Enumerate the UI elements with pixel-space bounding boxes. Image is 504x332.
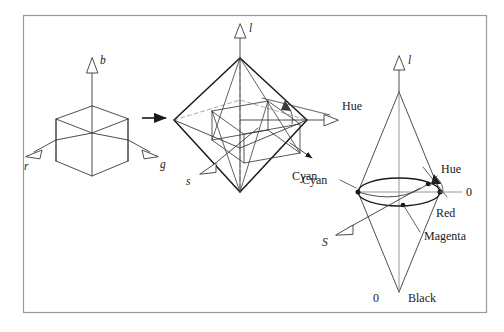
axis-label-s-octahedron: s	[186, 175, 191, 187]
octahedron-outline	[174, 58, 307, 192]
axis-b	[87, 58, 98, 106]
axis-hue-octahedron	[240, 98, 338, 126]
octahedron-construction-lines	[212, 58, 300, 192]
axis-label-l-octahedron: l	[249, 22, 252, 34]
axis-l-octahedron	[235, 24, 246, 58]
axis-label-hue-octahedron: Hue	[342, 99, 362, 113]
annotation-zero-right: 0	[466, 185, 472, 199]
diagram-svg: b r g	[0, 0, 504, 332]
octahedron-panel	[174, 24, 338, 192]
axis-label-l-cone: l	[408, 54, 411, 66]
axis-label-S-cone: S	[322, 236, 328, 248]
figure-container: b r g	[0, 0, 504, 332]
annotation-zero-bottom: 0	[373, 291, 379, 305]
cube-edges	[56, 106, 128, 176]
point-cyan	[356, 190, 361, 195]
axis-label-g: g	[160, 158, 166, 171]
annotation-magenta-cone: Magenta	[424, 229, 467, 243]
axis-label-b: b	[100, 54, 106, 66]
axis-g	[128, 140, 158, 159]
octahedron-front-edges	[174, 58, 307, 192]
point-hue	[426, 182, 431, 187]
axis-label-r: r	[24, 160, 29, 172]
annotation-hue-cone: Hue	[441, 162, 461, 176]
octahedron-hidden-edges	[174, 58, 307, 192]
cyan-leader-octahedron	[290, 143, 312, 158]
annotation-black: Black	[408, 291, 436, 305]
annotation-red-cone: Red	[436, 206, 455, 220]
annotation-cyan-cone: Cyan	[302, 173, 327, 187]
rgb-cube-panel	[26, 58, 158, 176]
axis-l-cone	[394, 56, 405, 292]
axis-r	[26, 140, 56, 159]
